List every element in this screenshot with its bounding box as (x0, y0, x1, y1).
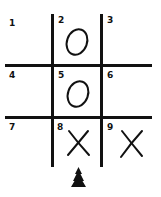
cell-1[interactable]: 1 (5, 14, 51, 64)
cell-2[interactable]: 2 (54, 14, 100, 64)
cell-number: 8 (57, 123, 63, 132)
cell-number: 4 (9, 71, 15, 80)
cell-4[interactable]: 4 (5, 67, 51, 116)
cell-number: 9 (107, 123, 113, 132)
cell-7[interactable]: 7 (5, 119, 51, 167)
o-mark-icon (63, 76, 93, 112)
cell-5[interactable]: 5 (54, 67, 100, 116)
cell-number: 3 (107, 16, 113, 25)
o-mark-icon (62, 24, 92, 60)
cell-number: 7 (9, 123, 15, 132)
tic-tac-toe-board: 1 2 3 4 5 6 7 8 9 (0, 0, 161, 197)
x-mark-icon (66, 129, 92, 157)
cell-6[interactable]: 6 (103, 67, 151, 116)
cell-number: 6 (107, 71, 113, 80)
pawn-arrow-icon (70, 166, 87, 188)
cell-9[interactable]: 9 (103, 119, 151, 167)
x-mark-icon (119, 129, 145, 159)
cell-8[interactable]: 8 (54, 119, 100, 167)
cell-3[interactable]: 3 (103, 14, 151, 64)
cell-number: 1 (9, 19, 15, 28)
